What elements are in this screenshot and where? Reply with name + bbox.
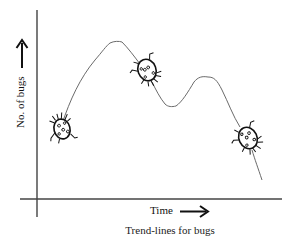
up-arrow-icon (17, 40, 28, 68)
y-axis-label: No. of bugs (14, 76, 26, 128)
right-arrow-icon (180, 206, 208, 217)
trend-curve (62, 41, 262, 180)
x-axis-label: Time (150, 204, 173, 216)
trend-lines-diagram: No. of bugs Time Trend-lines for bugs (0, 0, 295, 251)
ladybug-icon (126, 52, 165, 91)
ladybug-icon (44, 110, 78, 145)
figure-caption: Trend-lines for bugs (0, 224, 295, 236)
diagram-canvas (0, 0, 295, 251)
ladybug-icon (227, 121, 266, 160)
